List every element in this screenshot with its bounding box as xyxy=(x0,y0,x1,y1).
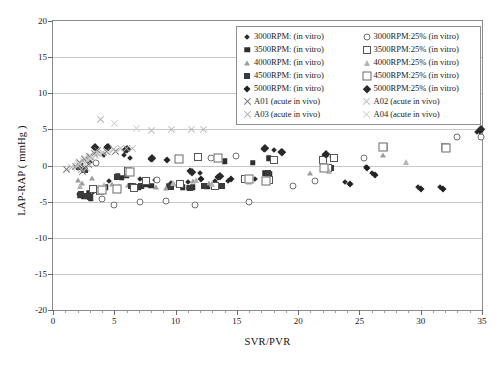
data-point xyxy=(330,154,338,162)
data-point xyxy=(246,180,252,185)
legend-item: 4000RPM: (in vitro) xyxy=(241,56,357,69)
x-axis-tick-label: 35 xyxy=(478,317,487,326)
data-point xyxy=(187,168,194,175)
x-axis-minor-tick xyxy=(188,310,189,313)
data-point xyxy=(205,184,211,190)
data-point xyxy=(88,195,94,201)
legend-item-label: 3000RPM:25% (in vitro) xyxy=(374,30,459,43)
data-point xyxy=(138,183,144,189)
x-axis-minor-tick xyxy=(323,310,324,313)
data-point xyxy=(104,148,113,157)
legend-marker-icon xyxy=(361,57,373,69)
data-point xyxy=(85,152,94,161)
data-point xyxy=(91,143,99,151)
x-axis-minor-tick xyxy=(78,310,79,313)
data-point xyxy=(96,187,104,195)
data-point xyxy=(62,165,71,174)
x-axis-tick-label: 20 xyxy=(294,317,303,326)
marker-glyph xyxy=(364,60,370,66)
chart-root: -20-15-10-50510152005101520253035 SVR/PV… xyxy=(0,0,504,367)
marker-glyph xyxy=(244,60,250,65)
marker-glyph xyxy=(243,97,252,106)
data-point xyxy=(76,192,82,198)
legend-marker-icon xyxy=(361,109,373,121)
y-axis-tick xyxy=(48,274,53,275)
data-point xyxy=(116,144,125,153)
data-point xyxy=(323,153,329,159)
marker-glyph xyxy=(243,85,250,92)
legend-marker-icon xyxy=(241,109,253,121)
marker-glyph xyxy=(362,97,371,106)
data-point xyxy=(78,191,84,197)
data-point xyxy=(122,146,129,153)
data-point xyxy=(130,184,138,192)
data-point xyxy=(124,173,130,179)
data-point xyxy=(437,184,443,190)
data-point xyxy=(125,183,131,188)
x-axis-minor-tick xyxy=(163,310,164,313)
y-axis-tick xyxy=(48,129,53,130)
data-point xyxy=(241,175,249,183)
x-axis-tick-label: 25 xyxy=(355,317,364,326)
x-axis-minor-tick xyxy=(151,310,152,313)
data-point xyxy=(372,171,379,178)
data-point xyxy=(89,185,97,193)
gridline-y xyxy=(53,129,482,130)
x-axis-minor-tick xyxy=(396,310,397,313)
x-axis-minor-tick xyxy=(261,310,262,313)
data-point xyxy=(188,168,196,176)
data-point xyxy=(380,143,388,151)
data-point xyxy=(197,170,203,176)
data-point xyxy=(119,175,125,181)
data-point xyxy=(227,175,234,182)
data-point xyxy=(476,127,483,134)
data-point xyxy=(71,162,80,171)
data-point xyxy=(128,183,134,189)
y-axis-tick xyxy=(48,166,53,167)
legend-item-label: 3000RPM: (in vitro) xyxy=(254,30,324,43)
data-point xyxy=(378,143,387,152)
x-axis-minor-tick xyxy=(310,310,311,313)
data-point xyxy=(176,180,184,188)
legend-item-label: 4000RPM: (in vitro) xyxy=(254,56,324,69)
legend-item-label: 3500RPM:25% (in vitro) xyxy=(374,43,459,56)
x-axis-tick-label: 10 xyxy=(171,317,180,326)
data-point xyxy=(87,159,93,165)
data-point xyxy=(80,155,89,164)
data-point xyxy=(137,176,143,182)
data-point xyxy=(290,182,297,189)
x-axis-minor-tick xyxy=(274,310,275,313)
data-point xyxy=(123,145,131,153)
legend-marker-icon xyxy=(241,83,253,95)
data-point xyxy=(113,184,119,190)
data-point xyxy=(143,182,149,188)
legend-item-label: 3500RPM: (in vitro) xyxy=(254,43,324,56)
data-point xyxy=(194,153,202,161)
legend-marker-icon xyxy=(361,70,373,82)
data-point xyxy=(185,179,191,185)
data-point xyxy=(98,148,107,157)
legend-marker-icon xyxy=(241,44,253,56)
data-point xyxy=(75,177,81,182)
data-point xyxy=(91,189,97,195)
data-point xyxy=(211,182,219,190)
marker-glyph xyxy=(363,46,371,54)
data-point xyxy=(81,194,87,200)
data-point xyxy=(122,144,131,153)
data-point xyxy=(267,171,273,177)
y-axis-tick-label: 20 xyxy=(38,17,47,26)
data-point xyxy=(88,153,97,162)
x-axis-minor-tick xyxy=(470,310,471,313)
data-point xyxy=(170,180,176,186)
data-point xyxy=(163,185,169,190)
data-point xyxy=(86,152,95,161)
data-point xyxy=(121,152,127,158)
data-point xyxy=(96,115,105,124)
y-axis-tick xyxy=(48,57,53,58)
data-point xyxy=(102,147,111,156)
data-point xyxy=(87,194,93,200)
data-point xyxy=(415,184,421,190)
legend-item: 5000RPM:25% (in vitro) xyxy=(361,82,477,95)
data-point xyxy=(262,176,271,185)
data-point xyxy=(270,156,278,164)
